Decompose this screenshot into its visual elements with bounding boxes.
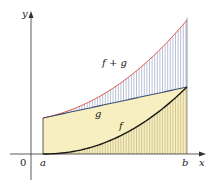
y-axis-arrow-icon [29, 11, 34, 18]
a-label: a [40, 157, 46, 168]
sum-of-functions-diagram: y x 0 a b f + g g f [0, 0, 213, 183]
y-axis-label: y [21, 8, 28, 19]
x-axis-arrow-icon [199, 152, 206, 157]
g-label: g [95, 108, 101, 119]
origin-label: 0 [20, 157, 26, 168]
f-plus-g-label: f + g [101, 57, 127, 68]
x-axis-label: x [199, 157, 205, 168]
b-label: b [182, 157, 188, 168]
